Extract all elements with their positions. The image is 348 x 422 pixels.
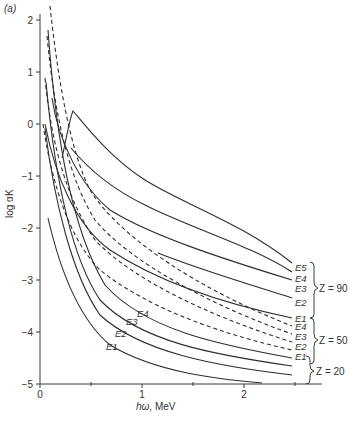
curve-z20-e2 xyxy=(45,128,292,375)
x-tick-label: 0 xyxy=(37,389,43,400)
curve-label: E1 xyxy=(295,351,307,362)
brace-z20 xyxy=(306,356,314,384)
y-tick-label: −2 xyxy=(22,223,34,234)
curve-label: E2 xyxy=(115,328,127,339)
x-ticks: 0 1 2 xyxy=(37,382,295,400)
panel-label: (a) xyxy=(4,3,16,14)
group-label-z90: Z = 90 xyxy=(319,283,348,294)
series-z20 xyxy=(45,30,292,383)
group-label-z50: Z = 50 xyxy=(319,335,348,346)
series-z90 xyxy=(45,98,292,318)
z50-labels: E4 E3 E2 E1 Z = 50 xyxy=(295,318,348,364)
z20-labels: Z = 20 xyxy=(306,356,345,384)
y-tick-label: 0 xyxy=(27,119,33,130)
curve-label: E2 xyxy=(295,297,307,308)
curve-z90-e2 xyxy=(158,253,292,298)
y-tick-label: −3 xyxy=(22,275,34,286)
y-tick-label: −1 xyxy=(22,171,34,182)
y-ticks: 2 1 0 −1 −2 −3 −4 −5 xyxy=(22,15,40,390)
curve-z50-e4 xyxy=(50,6,292,326)
curve-z90-e4 xyxy=(71,148,292,272)
curve-z90-e1 xyxy=(45,124,292,318)
x-tick-label: 2 xyxy=(241,389,247,400)
z90-labels: E5 E4 E3 E2 E1 Z = 90 xyxy=(295,262,348,324)
series-z50 xyxy=(43,6,292,350)
y-tick-label: 1 xyxy=(27,67,33,78)
conversion-coefficient-chart: (a) 2 1 0 −1 −2 −3 −4 −5 0 1 2 hω, MeV l… xyxy=(0,0,348,422)
group-label-z20: Z = 20 xyxy=(316,366,345,377)
y-tick-label: 2 xyxy=(27,15,33,26)
x-axis-title: hω, MeV xyxy=(136,401,176,412)
y-tick-label: −5 xyxy=(22,379,34,390)
curve-z50-e2 xyxy=(45,78,292,342)
curve-label: E3 xyxy=(295,283,307,294)
curve-z20-e1 xyxy=(48,218,262,383)
curve-label: E3 xyxy=(126,316,138,327)
y-axis-title: log αK xyxy=(4,189,15,218)
brace-z50 xyxy=(310,318,318,364)
curve-label: E1 xyxy=(106,341,118,352)
curve-label: E5 xyxy=(295,262,307,273)
curve-label: E4 xyxy=(137,308,149,319)
y-tick-label: −4 xyxy=(22,327,34,338)
x-tick-label: 1 xyxy=(139,389,145,400)
curve-z50-e3 xyxy=(47,36,292,334)
curve-z90-e5 xyxy=(62,111,292,263)
curve-z20-e3 xyxy=(46,82,292,366)
brace-z90 xyxy=(310,262,318,318)
